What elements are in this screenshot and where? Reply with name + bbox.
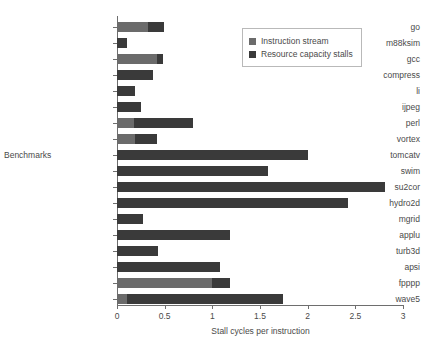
x-tick-label-0: 0 [102,311,132,321]
x-tick-3 [403,305,404,309]
bar-segment-gcc-instruction-stream [117,54,157,64]
bar-mgrid [117,214,143,224]
x-tick-label-1.5: 1.5 [245,311,275,321]
bar-apsi [117,262,220,272]
bar-segment-apsi-resource-capacity-stalls [117,262,220,272]
chart-legend: Instruction stream Resource capacity sta… [242,28,362,67]
bar-compress [117,70,153,80]
bar-segment-perl-resource-capacity-stalls [134,118,193,128]
bar-perl [117,118,193,128]
bar-ijpeg [117,102,141,112]
y-axis-label-vortex: vortex [314,134,426,144]
x-tick-label-0.5: 0.5 [150,311,180,321]
bar-segment-compress-resource-capacity-stalls [117,70,153,80]
legend-swatch-instruction-stream [249,38,256,45]
x-tick-label-2: 2 [293,311,323,321]
bar-segment-applu-resource-capacity-stalls [117,230,230,240]
bar-segment-vortex-resource-capacity-stalls [135,134,157,144]
legend-swatch-resource-capacity-stalls [249,51,256,58]
bar-fpppp [117,278,230,288]
bar-m88ksim [117,38,127,48]
y-axis-label-compress: compress [314,70,426,80]
bar-gcc [117,54,163,64]
y-axis-label-mgrid: mgrid [314,214,426,224]
bar-wave5 [117,294,283,304]
bar-applu [117,230,230,240]
bar-segment-gcc-resource-capacity-stalls [157,54,163,64]
y-axis-label-wave5: wave5 [314,294,426,304]
bar-swim [117,166,268,176]
x-axis-title: Stall cycles per instruction [117,326,404,336]
y-axis-label-swim: swim [314,166,426,176]
bar-tomcatv [117,150,308,160]
bar-segment-mgrid-resource-capacity-stalls [117,214,143,224]
bar-turb3d [117,246,158,256]
bar-segment-m88ksim-resource-capacity-stalls [117,38,127,48]
bar-segment-perl-instruction-stream [117,118,134,128]
bar-segment-go-instruction-stream [117,22,148,32]
bar-su2cor [117,182,385,192]
y-axis-label-apsi: apsi [314,262,426,272]
bar-segment-turb3d-resource-capacity-stalls [117,246,158,256]
legend-label-resource-capacity-stalls: Resource capacity stalls [261,49,353,59]
y-axis-label-perl: perl [314,118,426,128]
bar-vortex [117,134,157,144]
x-tick-label-3: 3 [388,311,418,321]
x-tick-2.5 [355,305,356,309]
bar-li [117,86,135,96]
x-tick-1.5 [260,305,261,309]
y-axis-label-applu: applu [314,230,426,240]
bar-segment-ijpeg-resource-capacity-stalls [117,102,141,112]
stall-cycles-bar-chart: gom88ksimgcccompressliijpegperlvortextom… [0,0,426,363]
y-axis-label-tomcatv: tomcatv [314,150,426,160]
bar-go [117,22,164,32]
bar-hydro2d [117,198,348,208]
bar-segment-su2cor-resource-capacity-stalls [117,182,385,192]
bar-segment-vortex-instruction-stream [117,134,135,144]
bar-segment-go-resource-capacity-stalls [148,22,163,32]
x-tick-label-2.5: 2.5 [340,311,370,321]
y-axis-title: Benchmarks [4,150,82,160]
bar-segment-swim-resource-capacity-stalls [117,166,268,176]
x-tick-0 [117,305,118,309]
legend-item-instruction-stream: Instruction stream [249,35,353,47]
bar-segment-fpppp-resource-capacity-stalls [212,278,230,288]
legend-item-resource-capacity-stalls: Resource capacity stalls [249,48,353,60]
bar-segment-tomcatv-resource-capacity-stalls [117,150,308,160]
bar-segment-wave5-instruction-stream [117,294,127,304]
y-axis-label-li: li [314,86,426,96]
bar-segment-wave5-resource-capacity-stalls [127,294,283,304]
y-axis-label-fpppp: fpppp [314,278,426,288]
x-tick-2 [308,305,309,309]
x-tick-label-1: 1 [197,311,227,321]
bar-segment-li-resource-capacity-stalls [117,86,135,96]
bar-segment-fpppp-instruction-stream [117,278,212,288]
x-tick-0.5 [165,305,166,309]
y-axis-label-turb3d: turb3d [314,246,426,256]
y-axis-label-ijpeg: ijpeg [314,102,426,112]
legend-label-instruction-stream: Instruction stream [261,36,329,46]
bar-segment-hydro2d-resource-capacity-stalls [117,198,348,208]
x-tick-1 [212,305,213,309]
